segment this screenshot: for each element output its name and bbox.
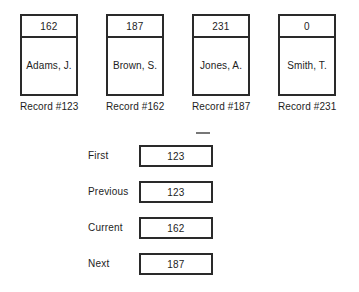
record-box: 0 Smith, T.: [278, 14, 336, 96]
record-caption: Record #162: [102, 101, 164, 112]
pointer-field-label: Next: [88, 253, 109, 275]
record-caption: Record #187: [188, 101, 250, 112]
record-pointer-value: 162: [22, 16, 76, 38]
record-node: 231 Jones, A. Record #187: [192, 14, 250, 112]
record-name-value: Adams, J.: [22, 38, 76, 94]
record-node: 162 Adams, J. Record #123: [20, 14, 78, 112]
record-node: 187 Brown, S. Record #162: [106, 14, 164, 112]
record-name-value: Jones, A.: [194, 38, 248, 94]
pointer-field-value: 162: [139, 217, 213, 239]
pointer-field-row-previous: Previous 123: [88, 181, 213, 203]
record-box: 162 Adams, J.: [20, 14, 78, 96]
pointer-field-label: Current: [88, 217, 123, 239]
pointer-field-value: 123: [139, 181, 213, 203]
record-pointer-value: 187: [108, 16, 162, 38]
record-box: 231 Jones, A.: [192, 14, 250, 96]
record-box: 187 Brown, S.: [106, 14, 164, 96]
pointer-field-label: First: [88, 145, 108, 167]
pointer-field-label: Previous: [88, 181, 129, 203]
pointer-field-row-next: Next 187: [88, 253, 213, 275]
record-name-value: Brown, S.: [108, 38, 162, 94]
scan-artifact-speck: [196, 132, 210, 134]
record-pointer-diagram: 162 Adams, J. Record #123 187 Brown, S. …: [0, 0, 359, 292]
record-pointer-value: 231: [194, 16, 248, 38]
record-name-value: Smith, T.: [280, 38, 334, 94]
pointer-field-row-current: Current 162: [88, 217, 213, 239]
pointer-field-value: 187: [139, 253, 213, 275]
record-caption: Record #123: [16, 101, 78, 112]
pointer-field-value: 123: [139, 145, 213, 167]
record-caption: Record #231: [274, 101, 336, 112]
pointer-field-row-first: First 123: [88, 145, 213, 167]
record-node: 0 Smith, T. Record #231: [278, 14, 336, 112]
record-pointer-value: 0: [280, 16, 334, 38]
